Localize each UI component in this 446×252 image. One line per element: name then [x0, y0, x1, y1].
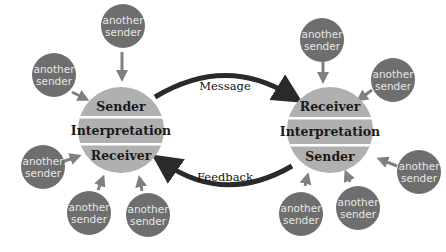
svg-text:sender: sender — [401, 172, 438, 184]
svg-text:sender: sender — [105, 26, 142, 38]
svg-text:another: another — [398, 160, 440, 172]
svg-text:sender: sender — [304, 40, 341, 52]
another-sender-node: another sender — [101, 4, 145, 48]
svg-text:sender: sender — [71, 213, 108, 225]
svg-text:another: another — [102, 14, 144, 26]
another-sender-node: another sender — [67, 191, 111, 235]
feedback-label: Feedback — [197, 170, 254, 184]
another-sender-node: another sender — [279, 192, 323, 236]
right-node: Receiver Interpretation Sender — [280, 87, 380, 173]
communication-diagram: Message Feedback Sender Interpretation R… — [0, 0, 446, 252]
svg-text:another: another — [372, 68, 414, 80]
svg-text:sender: sender — [283, 214, 320, 226]
svg-text:another: another — [68, 201, 110, 213]
svg-text:another: another — [22, 155, 64, 167]
another-sender-node: another sender — [300, 18, 344, 62]
another-sender-node: another sender — [32, 53, 76, 97]
svg-text:another: another — [127, 203, 169, 215]
svg-text:sender: sender — [340, 208, 377, 220]
another-sender-node: another sender — [21, 145, 65, 189]
left-node-bottom-label: Receiver — [91, 148, 152, 163]
svg-text:sender: sender — [130, 215, 167, 227]
right-node-middle-label: Interpretation — [280, 124, 380, 139]
right-node-top-label: Receiver — [300, 99, 361, 114]
svg-text:another: another — [280, 202, 322, 214]
svg-text:another: another — [337, 196, 379, 208]
another-sender-node: another sender — [397, 150, 441, 194]
left-node-middle-label: Interpretation — [71, 123, 171, 138]
svg-text:sender: sender — [375, 80, 412, 92]
svg-text:another: another — [33, 63, 75, 75]
svg-text:sender: sender — [25, 167, 62, 179]
right-node-bottom-label: Sender — [305, 149, 355, 164]
another-sender-node: another sender — [126, 193, 170, 237]
left-node: Sender Interpretation Receiver — [71, 87, 171, 173]
message-label: Message — [199, 79, 251, 93]
another-sender-node: another sender — [336, 186, 380, 230]
left-node-top-label: Sender — [96, 99, 146, 114]
another-sender-node: another sender — [371, 58, 415, 102]
svg-text:sender: sender — [36, 75, 73, 87]
svg-text:another: another — [301, 28, 343, 40]
